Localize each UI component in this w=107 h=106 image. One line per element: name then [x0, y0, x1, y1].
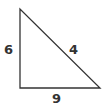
- triangle-diagram: 6 4 9: [0, 0, 107, 106]
- bottom-side-label: 9: [52, 91, 61, 106]
- left-side-label: 6: [4, 42, 13, 57]
- hypotenuse-label: 4: [69, 42, 78, 57]
- right-triangle: [20, 9, 100, 88]
